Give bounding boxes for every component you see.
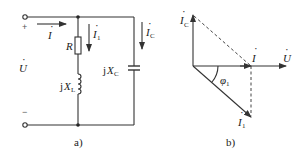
svg-text:C: C — [150, 32, 155, 40]
dashed-ic-to-i — [194, 16, 251, 66]
svg-text:j: j — [102, 64, 106, 76]
phasor-ic-label: I C · — [179, 5, 189, 29]
capacitor-label: j X C — [102, 64, 119, 78]
top-terminal-icon — [23, 15, 27, 19]
inductor-icon — [78, 74, 81, 94]
phasor-i-label: I · — [251, 42, 258, 64]
svg-text:j: j — [59, 80, 63, 92]
svg-text:·: · — [240, 106, 244, 118]
svg-text:1: 1 — [226, 80, 230, 88]
phasor-panel-b: I C · I · U · I 1 · φ 1 b) — [179, 5, 292, 149]
phasor-u-label: U · — [283, 43, 292, 64]
angle-arc-icon — [212, 66, 218, 82]
svg-text:·: · — [22, 53, 26, 65]
svg-text:1: 1 — [97, 34, 101, 42]
bottom-terminal-icon — [23, 123, 27, 127]
current-i-label: I · — [47, 20, 54, 41]
minus-sign: − — [22, 107, 27, 117]
panel-a-caption: a) — [74, 136, 83, 149]
resistor-label: R — [65, 40, 73, 52]
panel-b-caption: b) — [226, 136, 236, 149]
svg-text:L: L — [71, 86, 75, 94]
voltage-label: U · — [19, 53, 28, 74]
svg-text:·: · — [50, 20, 54, 32]
svg-text:·: · — [254, 42, 258, 54]
phasor-i1-label: I 1 · — [237, 106, 246, 130]
circuit-and-phasor-figure: + − U · I · I 1 · I C · R j X L j X — [0, 0, 306, 159]
svg-text:·: · — [95, 19, 99, 31]
circuit-panel-a: + − U · I · I 1 · I C · R j X L j X — [19, 15, 155, 149]
svg-text:·: · — [182, 5, 186, 17]
svg-text:C: C — [114, 70, 119, 78]
svg-text:C: C — [184, 21, 189, 29]
svg-text:·: · — [148, 17, 152, 29]
current-ic-label: I C · — [145, 17, 155, 40]
plus-sign: + — [22, 22, 27, 32]
svg-text:1: 1 — [242, 122, 246, 130]
svg-text:·: · — [285, 43, 289, 55]
current-i1-label: I 1 · — [92, 19, 101, 42]
resistor-icon — [75, 37, 81, 54]
inductor-label: j X L — [59, 80, 75, 94]
angle-phi1-label: φ 1 — [220, 74, 230, 88]
